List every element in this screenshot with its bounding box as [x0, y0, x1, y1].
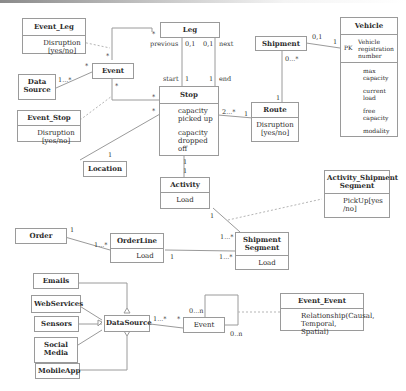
class-activity-shipment-segment[interactable]: Activity_Shipment Segment PickUp[yes /no…	[324, 170, 390, 218]
role-label: next	[219, 40, 233, 48]
multiplicity-label: 1	[185, 75, 189, 83]
multiplicity-label: 1	[183, 167, 187, 175]
class-social-media[interactable]: Social Media	[34, 337, 78, 363]
role-label: start	[163, 75, 179, 83]
class-emails[interactable]: Emails	[33, 273, 79, 289]
multiplicity-label: 1	[210, 212, 214, 220]
class-stop[interactable]: Stop capacity picked up capacity dropped…	[159, 86, 219, 156]
multiplicity-label: *	[106, 52, 109, 60]
class-attribute: capacity dropped off	[178, 129, 214, 153]
class-leg[interactable]: Leg	[160, 22, 220, 38]
class-shipment-segment[interactable]: Shipment Segment Load	[235, 232, 289, 270]
class-attribute: Disruption [yes/no]	[252, 118, 298, 140]
class-name: Location	[84, 162, 126, 176]
class-name: DataSource	[105, 316, 149, 330]
multiplicity-label: 0...n	[189, 307, 204, 315]
multiplicity-label: 1...*	[94, 241, 108, 249]
multiplicity-label: 1	[108, 151, 112, 159]
multiplicity-label: 0,1	[185, 40, 195, 48]
class-name: Leg	[161, 23, 219, 37]
class-name: WebServices	[32, 296, 80, 312]
class-name: Event_Event	[281, 294, 363, 309]
class-name: Vehicle	[341, 18, 397, 35]
multiplicity-label: *	[152, 30, 155, 38]
class-event-stop[interactable]: Event_Stop Disruption [yes/no]	[17, 110, 81, 142]
class-attribute: free capacity	[363, 107, 394, 121]
class-name: Social Media	[35, 338, 77, 360]
class-name: Event	[93, 64, 133, 78]
class-name: Order	[16, 229, 66, 243]
multiplicity-label: 1	[170, 253, 174, 261]
multiplicity-label: *	[152, 93, 155, 101]
multiplicity-label: 1...*	[220, 233, 234, 241]
class-attribute: PickUp[yes /no]	[325, 194, 389, 216]
pk-label: PK	[344, 44, 358, 59]
class-name: Stop	[160, 87, 218, 104]
class-order[interactable]: Order	[15, 228, 67, 244]
class-name: Shipment Segment	[236, 233, 288, 256]
role-label: previous	[150, 40, 178, 48]
class-name: Shipment	[256, 37, 306, 51]
multiplicity-label: *	[152, 107, 155, 115]
class-name: Route	[252, 103, 298, 118]
multiplicity-label: 1	[209, 75, 213, 83]
multiplicity-label: *	[85, 62, 88, 70]
class-attribute: Load	[111, 249, 163, 263]
class-event-event[interactable]: Event_Event Relationship(Causal, Tempora…	[280, 293, 364, 331]
multiplicity-label: *	[115, 82, 118, 90]
class-activity[interactable]: Activity Load	[160, 177, 210, 209]
role-label: end	[219, 75, 231, 83]
class-attribute: max capacity	[363, 67, 394, 81]
class-attribute: Load	[236, 256, 288, 270]
class-location[interactable]: Location	[83, 161, 127, 177]
class-name: Event_Leg	[23, 19, 85, 36]
class-order-line[interactable]: OrderLine Load	[110, 233, 164, 263]
class-attribute: Disruption [yes/no]	[23, 36, 85, 58]
multiplicity-label: 1	[276, 94, 280, 102]
class-attribute: Disruption [yes/no]	[18, 126, 80, 148]
multiplicity-label: 2...*	[222, 108, 236, 116]
class-attribute: Load	[161, 193, 209, 207]
multiplicity-label: 0,1	[203, 40, 213, 48]
class-route[interactable]: Route Disruption [yes/no]	[251, 102, 299, 142]
class-event-top[interactable]: Event	[92, 63, 134, 79]
multiplicity-label: 0..n	[230, 330, 242, 338]
class-data-source-top[interactable]: Data Source	[18, 74, 56, 100]
class-name: Event	[184, 318, 224, 332]
class-name: Activity	[161, 178, 209, 193]
class-data-source[interactable]: DataSource	[104, 315, 150, 332]
class-name: Emails	[34, 274, 78, 288]
multiplicity-label: 0...*	[285, 55, 299, 63]
multiplicity-label: 1	[183, 158, 187, 166]
class-attribute: Relationship(Causal, Temporal, Spatial)	[281, 309, 363, 339]
class-name: OrderLine	[111, 234, 163, 249]
class-attribute: capacity picked up	[178, 107, 214, 123]
multiplicity-label: 1	[244, 110, 248, 118]
class-attribute: current load	[363, 87, 394, 101]
class-name: Sensors	[35, 317, 78, 331]
class-name: Activity_Shipment Segment	[325, 171, 389, 194]
multiplicity-label: 0,1	[312, 33, 322, 41]
class-event-bottom[interactable]: Event	[183, 317, 225, 333]
class-web-services[interactable]: WebServices	[31, 295, 81, 313]
class-attribute: modality	[363, 127, 394, 134]
class-attribute: Vehicle registration number	[358, 38, 394, 59]
multiplicity-label: 1	[70, 226, 74, 234]
multiplicity-label: 1...*	[58, 76, 72, 84]
multiplicity-label: *	[177, 315, 180, 323]
class-mobile-app[interactable]: MobileApp	[35, 363, 80, 379]
class-shipment[interactable]: Shipment	[255, 36, 307, 51]
multiplicity-label: 1...*	[153, 315, 167, 323]
class-vehicle[interactable]: Vehicle PK Vehicle registration number m…	[340, 17, 398, 137]
class-name: Data Source	[19, 75, 55, 97]
multiplicity-label: 1	[333, 38, 337, 46]
class-sensors[interactable]: Sensors	[34, 316, 79, 332]
multiplicity-label: 1...*	[219, 253, 233, 261]
class-name: Event_Stop	[18, 111, 80, 126]
class-name: MobileApp	[36, 364, 79, 378]
class-event-leg[interactable]: Event_Leg Disruption [yes/no]	[22, 18, 86, 54]
